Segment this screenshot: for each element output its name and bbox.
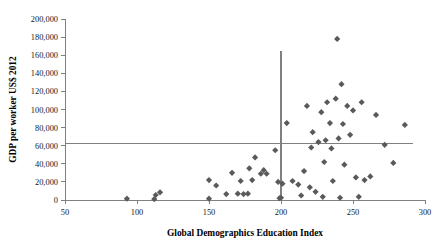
data-point (338, 81, 344, 87)
data-point (373, 112, 379, 118)
data-point (359, 99, 365, 105)
data-point (323, 137, 329, 143)
data-point (327, 120, 333, 126)
data-point (272, 147, 278, 153)
x-tick-label-150: 150 (203, 208, 216, 217)
data-point (245, 191, 251, 197)
data-point (324, 99, 330, 105)
data-point (356, 194, 362, 200)
data-point (318, 109, 324, 115)
data-point (295, 182, 301, 188)
y-tick-label-160000: 160,000 (31, 51, 58, 60)
data-point (330, 178, 336, 184)
data-point (347, 132, 353, 138)
y-axis-title: GDP per worker US$ 2012 (8, 56, 18, 163)
data-point (223, 191, 229, 197)
data-point (238, 178, 244, 184)
x-tick-label-50: 50 (61, 208, 69, 217)
x-tick-label-200: 200 (275, 208, 288, 217)
data-point (361, 177, 367, 183)
data-point (298, 192, 304, 198)
data-point (229, 170, 235, 176)
y-tick-label-0: 0 (54, 196, 58, 205)
data-point (249, 177, 255, 183)
data-point (367, 173, 373, 179)
x-tick-label-250: 250 (347, 208, 360, 217)
data-point (320, 194, 326, 200)
y-tick-label-140000: 140,000 (31, 69, 58, 78)
data-point (341, 162, 347, 168)
data-point (124, 196, 130, 202)
y-tick-label-40000: 40,000 (35, 160, 58, 169)
data-point (336, 135, 342, 141)
y-tick-label-20000: 20,000 (35, 178, 58, 187)
data-point (246, 165, 252, 171)
data-point (334, 36, 340, 42)
y-tick-label-180000: 180,000 (31, 33, 58, 42)
data-point (235, 191, 241, 197)
y-tick-label-200000: 200,000 (31, 15, 58, 24)
data-point (308, 144, 314, 150)
data-point (382, 142, 388, 148)
data-point (310, 129, 316, 135)
data-point (206, 196, 212, 202)
data-point (340, 121, 346, 127)
x-tick-label-300: 300 (419, 208, 432, 217)
data-point (350, 107, 356, 113)
plot-canvas: 020,00040,00060,00080,000100,000120,0001… (0, 0, 447, 251)
data-point (284, 120, 290, 126)
y-tick-label-80000: 80,000 (35, 124, 58, 133)
y-tick-label-120000: 120,000 (31, 87, 58, 96)
data-point (301, 168, 307, 174)
data-point (206, 177, 212, 183)
x-axis-title: Global Demographics Education Index (167, 228, 323, 238)
data-point (333, 96, 339, 102)
y-tick-label-60000: 60,000 (35, 142, 58, 151)
data-point (304, 103, 310, 109)
data-point (289, 178, 295, 184)
x-tick-label-100: 100 (131, 208, 144, 217)
scatter-chart-figure: 020,00040,00060,00080,000100,000120,0001… (0, 0, 447, 251)
data-point (321, 159, 327, 165)
data-point (328, 145, 334, 151)
data-point (353, 174, 359, 180)
y-tick-label-100000: 100,000 (31, 106, 58, 115)
data-point (402, 122, 408, 128)
data-point (307, 184, 313, 190)
data-point (312, 189, 318, 195)
data-point (252, 154, 258, 160)
data-point (344, 103, 350, 109)
data-point (213, 182, 219, 188)
data-point (390, 160, 396, 166)
